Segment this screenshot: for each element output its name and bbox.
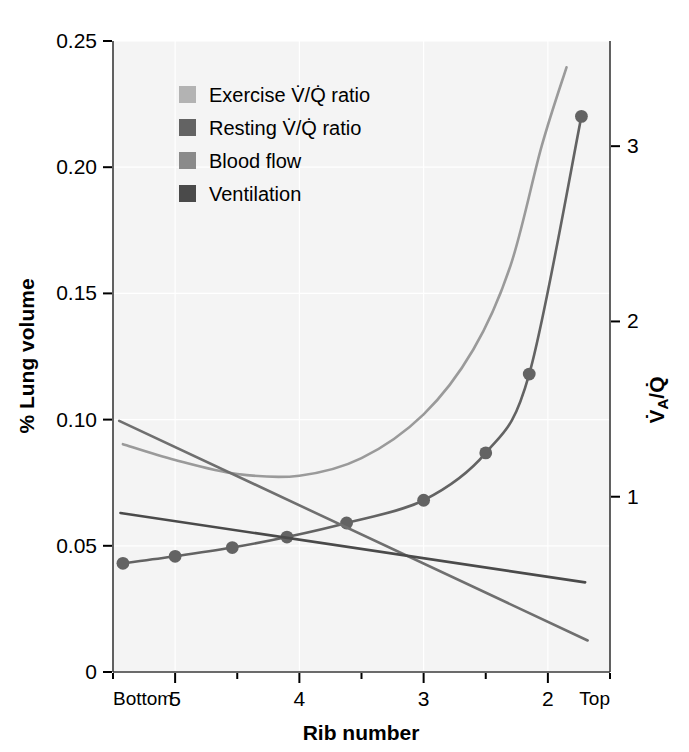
legend-swatch [179, 119, 196, 136]
v-dot-glyph: V̇ [645, 410, 668, 424]
y-axis-left-tick-label: 0.25 [56, 29, 97, 52]
y-axis-left-tick-label: 0 [85, 660, 97, 683]
y-axis-left-title: % Lung volume [15, 278, 38, 433]
legend-item-label: Resting V̇/Q̇ ratio [209, 117, 361, 139]
q-dot-glyph: Q̇ [310, 84, 326, 106]
y-axis-left-tick-label: 0.20 [56, 155, 97, 178]
data-point-marker [226, 541, 239, 554]
data-point-marker [417, 494, 430, 507]
y-axis-left-tick-label: 0.15 [56, 281, 97, 304]
legend-item-label: Ventilation [209, 183, 301, 205]
q-dot-glyph: Q̇ [301, 117, 317, 139]
x-axis-top-endpoint-label: Top [579, 688, 610, 709]
legend-item-label: Blood flow [209, 150, 302, 172]
x-axis-tick-label: 2 [542, 687, 554, 710]
data-point-marker [479, 447, 492, 460]
data-point-marker [523, 368, 536, 381]
y-axis-left-tick-label: 0.05 [56, 534, 97, 557]
y-axis-right-tick-label: 1 [627, 485, 639, 508]
x-axis-tick-label: 3 [418, 687, 430, 710]
y-axis-left-tick-label: 0.10 [56, 408, 97, 431]
y-axis-right-tick-label: 2 [627, 309, 639, 332]
v-dot-glyph: V̇ [282, 117, 296, 139]
y-axis-right-tick-label: 3 [627, 134, 639, 157]
legend-swatch [179, 152, 196, 169]
q-dot-glyph: Q̇ [645, 376, 668, 392]
x-axis-bottom-endpoint-label: Bottom [113, 688, 173, 709]
v-dot-glyph: V̇ [291, 84, 305, 106]
chart-figure: 00.050.100.150.200.25 123 5432 Bottom To… [0, 0, 689, 752]
legend-item-label: Exercise V̇/Q̇ ratio [209, 84, 370, 106]
data-point-marker [169, 550, 182, 563]
x-axis-title: Rib number [303, 721, 420, 744]
data-point-marker [575, 110, 588, 123]
legend-swatch [179, 185, 196, 202]
subscript-a: A [654, 399, 671, 410]
data-point-marker [117, 557, 130, 570]
x-axis-tick-label: 4 [294, 687, 306, 710]
legend-swatch [179, 86, 196, 103]
chart-svg: 00.050.100.150.200.25 123 5432 Bottom To… [0, 0, 689, 752]
